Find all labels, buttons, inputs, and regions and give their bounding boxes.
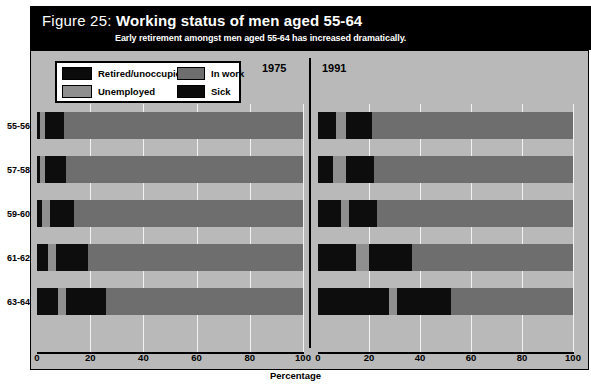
bar-row	[318, 200, 573, 227]
x-tick-1975-0: 0	[34, 352, 39, 363]
bar-segment-unemployed	[42, 200, 50, 227]
figure-container: Figure 25: Working status of men aged 55…	[0, 0, 591, 385]
y-axis-label-63-64: 63-64	[0, 297, 30, 307]
gridline	[573, 104, 574, 352]
y-axis-label-55-56: 55-56	[0, 121, 30, 131]
x-tick-1991-20: 20	[364, 352, 375, 363]
figure-title-band: Figure 25: Working status of men aged 55…	[30, 6, 591, 50]
bar-row	[37, 288, 303, 315]
plot-body-1991	[318, 104, 573, 352]
x-tick-1975-80: 80	[245, 352, 256, 363]
figure-title-line: Figure 25: Working status of men aged 55…	[42, 12, 362, 30]
x-tick-1991-60: 60	[466, 352, 477, 363]
bar-row	[37, 200, 303, 227]
bar-segment-in-work	[377, 200, 573, 227]
bar-row	[37, 244, 303, 271]
bar-segment-retired-unoccupied	[50, 200, 74, 227]
bar-segment-retired-unoccupied	[56, 244, 88, 271]
bar-segment-in-work	[66, 156, 303, 183]
x-tick-1991-80: 80	[517, 352, 528, 363]
bar-row	[318, 288, 573, 315]
bar-row	[318, 112, 573, 139]
bar-segment-in-work	[412, 244, 573, 271]
bar-segment-retired-unoccupied	[45, 156, 66, 183]
bar-segment-sick	[37, 244, 48, 271]
figure-title: Working status of men aged 55-64	[116, 12, 362, 29]
bar-segment-in-work	[88, 244, 303, 271]
bar-segment-retired-unoccupied	[397, 288, 451, 315]
bar-segment-in-work	[64, 112, 303, 139]
bar-segment-unemployed	[333, 156, 346, 183]
bar-row	[37, 156, 303, 183]
bar-segment-in-work	[106, 288, 303, 315]
bar-row	[318, 156, 573, 183]
bar-segment-retired-unoccupied	[45, 112, 64, 139]
x-tick-1991-0: 0	[315, 352, 320, 363]
bar-row	[318, 244, 573, 271]
bar-segment-retired-unoccupied	[346, 156, 374, 183]
bar-segment-unemployed	[48, 244, 56, 271]
bar-segment-in-work	[372, 112, 573, 139]
bar-segment-retired-unoccupied	[349, 200, 377, 227]
bar-segment-sick	[318, 288, 389, 315]
bar-segment-unemployed	[341, 200, 349, 227]
figure-subtitle: Early retirement amongst men aged 55-64 …	[115, 33, 406, 43]
bar-segment-retired-unoccupied	[66, 288, 106, 315]
x-tick-1975-20: 20	[85, 352, 96, 363]
y-axis-label-61-62: 61-62	[0, 253, 30, 263]
panel-divider	[309, 58, 311, 348]
y-axis-label-57-58: 57-58	[0, 165, 30, 175]
bar-segment-sick	[318, 200, 341, 227]
x-tick-1991-100: 100	[565, 352, 581, 363]
bar-segment-retired-unoccupied	[369, 244, 412, 271]
bar-segment-sick	[318, 156, 333, 183]
bar-segment-sick	[318, 244, 356, 271]
y-axis-label-59-60: 59-60	[0, 209, 30, 219]
bar-segment-sick	[37, 288, 58, 315]
gridline	[303, 104, 304, 352]
bar-segment-unemployed	[58, 288, 66, 315]
plot-body-1975	[37, 104, 303, 352]
x-tick-1991-40: 40	[415, 352, 426, 363]
figure-number-label: Figure 25:	[42, 12, 112, 29]
bar-segment-sick	[318, 112, 336, 139]
bar-segment-in-work	[451, 288, 573, 315]
x-axis-line-1991	[318, 352, 574, 354]
x-axis-title: Percentage	[0, 370, 591, 381]
x-tick-1975-100: 100	[295, 352, 311, 363]
x-axis-line-1975	[37, 352, 304, 354]
bar-segment-unemployed	[356, 244, 369, 271]
panel-1991	[318, 58, 573, 348]
bar-row	[37, 112, 303, 139]
bar-segment-retired-unoccupied	[346, 112, 372, 139]
bar-segment-in-work	[374, 156, 573, 183]
bar-segment-unemployed	[336, 112, 346, 139]
panel-1975	[37, 58, 303, 348]
x-tick-1975-60: 60	[191, 352, 202, 363]
bar-segment-unemployed	[389, 288, 397, 315]
bar-segment-in-work	[74, 200, 303, 227]
x-tick-1975-40: 40	[138, 352, 149, 363]
